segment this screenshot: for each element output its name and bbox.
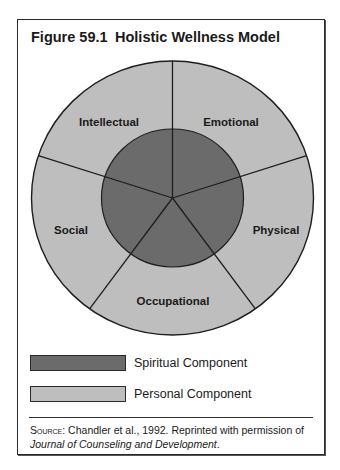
segment-label-physical: Physical — [253, 224, 300, 236]
legend-label-personal: Personal Component — [134, 387, 251, 401]
segment-label-intellectual: Intellectual — [79, 116, 139, 128]
source-end: . — [217, 438, 220, 450]
segment-label-social: Social — [54, 224, 88, 236]
legend-swatch-spiritual — [30, 355, 126, 371]
source-divider — [29, 417, 313, 418]
legend-item-spiritual: Spiritual Component — [30, 354, 247, 372]
segment-label-occupational: Occupational — [137, 295, 210, 307]
legend-label-spiritual: Spiritual Component — [134, 356, 247, 370]
source-journal: Journal of Counseling and Development — [30, 438, 217, 450]
source-citation: Chandler et al., 1992. Reprinted with pe… — [65, 424, 304, 436]
legend-swatch-personal — [30, 386, 126, 402]
source-note: Source: Chandler et al., 1992. Reprinted… — [30, 423, 320, 451]
legend-item-personal: Personal Component — [30, 385, 251, 403]
segment-label-emotional: Emotional — [203, 116, 259, 128]
source-label: Source: — [30, 424, 65, 436]
